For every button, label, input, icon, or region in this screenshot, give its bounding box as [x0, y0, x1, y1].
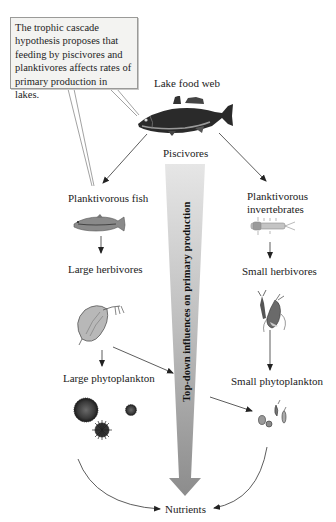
label-large-herbivores: Large herbivores	[68, 263, 143, 276]
callout-line-4: planktivores affects rates of	[15, 61, 133, 74]
label-planktivorous-invertebrates-1: Planktivorous	[247, 190, 308, 203]
larva-icon	[251, 217, 295, 235]
hypothesis-callout: The trophic cascade hypothesis proposes …	[10, 17, 138, 89]
callout-pointers	[68, 89, 139, 186]
copepod-icon	[258, 290, 285, 332]
label-small-phytoplankton: Small phytoplankton	[231, 375, 323, 388]
bass-fish-icon	[138, 96, 233, 136]
label-planktivorous-invertebrates-2: invertebrates	[247, 203, 304, 216]
label-nutrients: Nutrients	[165, 503, 206, 516]
callout-line-5: primary production in lakes.	[15, 75, 133, 102]
callout-line-3: feeding by piscivores and	[15, 48, 133, 61]
small-algae-icon	[259, 400, 287, 427]
label-piscivores: Piscivores	[163, 147, 208, 160]
daphnia-icon	[78, 306, 124, 345]
diagram-title: Lake food web	[154, 77, 220, 90]
label-large-phytoplankton: Large phytoplankton	[63, 372, 155, 385]
top-down-arrow-label: Top-down influences on primary productio…	[181, 202, 192, 402]
callout-line-2: hypothesis proposes that	[15, 34, 133, 47]
callout-line-1: The trophic cascade	[15, 21, 133, 34]
minnow-fish-icon	[74, 214, 125, 231]
label-small-herbivores: Small herbivores	[242, 265, 317, 278]
label-planktivorous-fish: Planktivorous fish	[68, 192, 148, 205]
colonial-algae-icon	[74, 398, 137, 440]
